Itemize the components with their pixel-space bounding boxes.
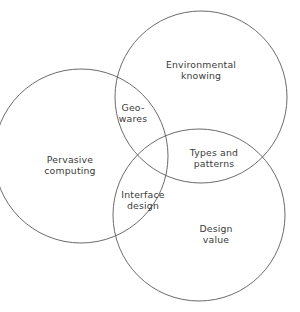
circle-environmental-knowing — [115, 11, 287, 183]
venn-circles-canvas — [0, 0, 300, 312]
venn-diagram: Environmental knowing Geo- wares Types a… — [0, 0, 300, 312]
circle-design-value — [113, 129, 285, 301]
circle-pervasive-computing — [0, 69, 168, 243]
